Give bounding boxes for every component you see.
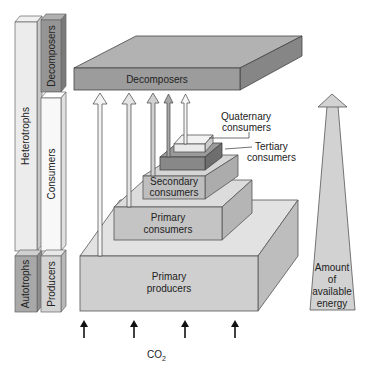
secondary-consumers-label-2: consumers — [150, 187, 199, 198]
decomposers-block: Decomposers — [74, 36, 302, 90]
energy-label-3: available — [312, 286, 352, 297]
tertiary-label-1: Tertiary — [255, 141, 288, 152]
energy-label-1: Amount — [315, 262, 350, 273]
quaternary-label-2: consumers — [222, 122, 271, 133]
co2-arrows: CO2 — [80, 320, 239, 362]
inner-column: Decomposers Consumers Producers — [41, 14, 66, 312]
energy-pyramid-diagram: Heterotrophs Autotrophs Decomposers Cons… — [0, 0, 371, 372]
primary-producers-label-2: producers — [147, 283, 191, 294]
consumers-side-label: Consumers — [46, 148, 57, 199]
outer-column: Heterotrophs Autotrophs — [15, 16, 42, 312]
producers-side-label: Producers — [46, 261, 57, 307]
co2-arrow-icon — [80, 320, 88, 338]
available-energy-arrow: Amount of available energy — [310, 94, 355, 310]
autotrophs-label: Autotrophs — [20, 260, 31, 308]
quaternary-consumers-callout: Quaternary consumers — [209, 111, 271, 138]
arrow-from-secondary-consumers — [147, 93, 159, 176]
energy-label-2: of — [328, 274, 337, 285]
primary-producers-label-1: Primary — [152, 271, 186, 282]
co2-arrow-icon — [130, 320, 138, 338]
co2-label: CO2 — [147, 349, 166, 362]
co2-arrow-icon — [181, 320, 189, 338]
co2-arrow-icon — [231, 320, 239, 338]
decomposers-label: Decomposers — [126, 74, 188, 85]
primary-consumers-label-1: Primary — [151, 212, 185, 223]
primary-consumers-label-2: consumers — [144, 224, 193, 235]
energy-label-4: energy — [317, 298, 348, 309]
quaternary-consumers-block — [174, 135, 213, 152]
decomposers-side-label: Decomposers — [46, 25, 57, 87]
tertiary-label-2: consumers — [247, 152, 296, 163]
quaternary-label-1: Quaternary — [221, 111, 271, 122]
secondary-consumers-label-1: Secondary — [150, 176, 198, 187]
heterotrophs-label: Heterotrophs — [20, 107, 31, 165]
